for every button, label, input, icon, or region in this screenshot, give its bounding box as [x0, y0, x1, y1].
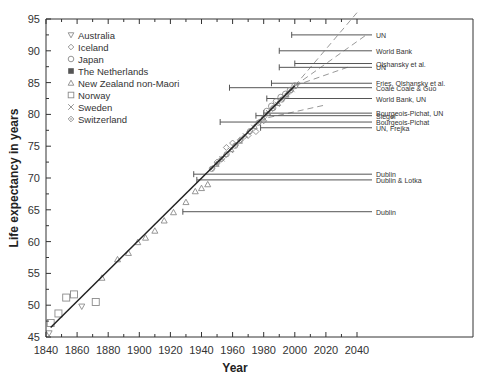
projection-label: UN: [376, 64, 386, 71]
x-axis-label: Year: [222, 361, 248, 375]
legend-item: Australia: [68, 30, 115, 41]
y-tick-label: 80: [28, 108, 40, 120]
x-tick-label: 1840: [34, 344, 58, 356]
y-tick-label: 90: [28, 45, 40, 57]
x-tick-label: 1920: [158, 344, 182, 356]
legend: AustraliaIcelandJapanThe NetherlandsNew …: [68, 30, 179, 125]
x-tick-label: 1860: [65, 344, 89, 356]
x-tick-label: 2040: [345, 344, 369, 356]
y-tick-label: 95: [28, 13, 40, 25]
x-tick-label: 1940: [189, 344, 213, 356]
dashed-projection: [295, 35, 367, 86]
legend-label: Australia: [78, 30, 116, 41]
projection-label: Dublin & Lotka: [376, 177, 422, 184]
projection-label: UN: [376, 32, 386, 39]
legend-label: Switzerland: [78, 114, 127, 125]
x-tick-label: 2000: [283, 344, 307, 356]
legend-label: Iceland: [78, 42, 109, 53]
projection-label: Coale Coale & Guo: [376, 85, 436, 92]
legend-label: The Netherlands: [78, 66, 148, 77]
y-tick-label: 70: [28, 172, 40, 184]
x-tick-label: 1900: [127, 344, 151, 356]
x-tick-label: 1880: [96, 344, 120, 356]
legend-item: Sweden: [68, 102, 112, 113]
legend-item: Switzerland: [68, 114, 127, 125]
legend-item: The Netherlands: [68, 66, 148, 77]
life-expectancy-chart: UNWorld BankOlshansky et al.UNFries, Ols…: [0, 0, 481, 383]
projection-lines: UNWorld BankOlshansky et al.UNFries, Ols…: [183, 32, 445, 216]
projection-label: Dublin: [376, 209, 396, 216]
legend-item: Norway: [68, 90, 110, 101]
projection-label: World Bank, UN: [376, 96, 426, 103]
legend-label: Norway: [78, 90, 110, 101]
y-tick-label: 55: [28, 267, 40, 279]
x-tick-label: 2020: [314, 344, 338, 356]
y-axis-label: Life expectancy in years: [7, 108, 21, 247]
y-tick-label: 85: [28, 77, 40, 89]
legend-item: New Zealand non-Maori: [68, 78, 179, 89]
projection-label: World Bank: [376, 48, 413, 55]
x-tick-label: 1980: [251, 344, 275, 356]
y-tick-label: 65: [28, 204, 40, 216]
legend-label: New Zealand non-Maori: [78, 78, 179, 89]
y-tick-label: 45: [28, 331, 40, 343]
legend-item: Iceland: [68, 42, 108, 53]
y-tick-label: 60: [28, 236, 40, 248]
x-tick-label: 1960: [220, 344, 244, 356]
legend-label: Sweden: [78, 102, 112, 113]
legend-label: Japan: [78, 54, 104, 65]
y-tick-label: 50: [28, 299, 40, 311]
projection-label: UN, Frejka: [376, 125, 410, 133]
legend-item: Japan: [68, 54, 104, 65]
y-tick-label: 75: [28, 140, 40, 152]
